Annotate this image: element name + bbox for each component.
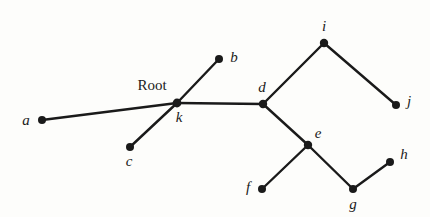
graph-node-c xyxy=(126,143,134,151)
graph-edge-e-f xyxy=(262,145,308,189)
graph-node-g xyxy=(349,185,357,193)
graph-node-h xyxy=(386,158,394,166)
graph-edge-d-e xyxy=(263,104,308,145)
graph-node-d xyxy=(259,100,267,108)
graph-edge-i-j xyxy=(324,43,396,105)
graph-node-e xyxy=(304,141,312,149)
edges-group xyxy=(42,43,396,189)
node-label-c: c xyxy=(126,154,133,169)
graph-node-b xyxy=(215,55,223,63)
graph-figure: abcdefghijk Root xyxy=(0,0,430,217)
graph-edge-k-b xyxy=(177,59,219,103)
graph-edge-a-k xyxy=(42,103,177,120)
node-label-g: g xyxy=(349,197,357,212)
node-label-d: d xyxy=(258,80,266,95)
node-label-b: b xyxy=(230,50,238,65)
node-label-e: e xyxy=(315,126,322,141)
graph-edge-e-g xyxy=(308,145,353,189)
graph-canvas xyxy=(0,0,430,217)
node-label-a: a xyxy=(22,113,30,128)
graph-node-k xyxy=(173,99,182,108)
graph-node-j xyxy=(392,101,400,109)
graph-node-a xyxy=(38,116,46,124)
node-label-i: i xyxy=(322,19,326,34)
graph-edge-g-h xyxy=(353,162,390,189)
node-label-f: f xyxy=(246,180,250,195)
graph-node-f xyxy=(258,185,266,193)
graph-edge-k-d xyxy=(177,103,263,104)
node-label-j: j xyxy=(407,94,411,109)
node-label-h: h xyxy=(400,147,408,162)
graph-edge-d-i xyxy=(263,43,324,104)
graph-edge-c-k xyxy=(130,103,177,147)
root-label: Root xyxy=(137,78,166,93)
graph-node-i xyxy=(320,39,328,47)
node-label-k: k xyxy=(176,110,183,125)
